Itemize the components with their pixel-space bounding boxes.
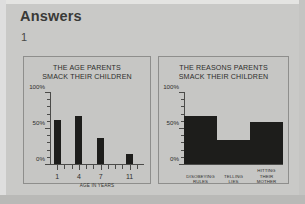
chart-panel-age: THE AGE PARENTS SMACK THEIR CHILDREN 0%5… [23,56,151,184]
x-tick [130,164,131,170]
plot-area-reasons: 0%50%100% DISOBEYING RULESTELLING LIESHI… [184,93,283,165]
bar [250,122,283,164]
category-label: DISOBEYING RULES [186,174,214,184]
bar [184,116,217,164]
plot-area-age: 0%50%100% 14711 AGE IN YEARS [50,93,144,165]
y-tick-label: 50% [33,119,45,126]
x-axis-reasons [184,164,283,165]
page-edge-bottom [0,195,305,204]
x-axis-caption-age: AGE IN YEARS [80,183,115,188]
y-tick-label: 0% [36,155,45,162]
y-tick [47,157,51,158]
x-tick [57,164,58,170]
bar [126,154,133,164]
y-tick [181,99,185,100]
x-tick [137,165,138,169]
category-label: HITTING THEIR MOTHER [257,168,277,184]
chart-panel-reasons: THE REASONS PARENTS SMACK THEIR CHILDREN… [158,56,289,184]
bar [97,138,104,164]
question-number: 1 [21,31,27,43]
x-tick-label: 11 [126,173,133,180]
chart-title-reasons-line2: SMACK THEIR CHILDREN [159,73,288,82]
y-tick [45,164,51,165]
x-tick-label: 7 [99,173,103,180]
y-tick-label: 100% [29,83,45,90]
x-tick [79,164,80,170]
chart-title-reasons-line1: THE REASONS PARENTS [159,64,288,73]
x-tick-label: 4 [77,173,81,180]
x-tick [93,165,94,169]
chart-title-reasons: THE REASONS PARENTS SMACK THEIR CHILDREN [159,64,288,82]
y-tick [47,142,51,143]
chart-title-age-line1: THE AGE PARENTS [24,64,150,73]
chart-title-age-line2: SMACK THEIR CHILDREN [24,73,150,82]
y-tick-label: 50% [167,119,179,126]
x-tick [122,165,123,169]
y-tick [47,106,51,107]
y-axis-age [50,93,51,165]
y-tick [47,121,51,122]
y-tick [45,92,51,93]
y-tick [181,114,185,115]
y-tick [47,114,51,115]
y-tick [47,99,51,100]
y-tick [45,128,51,129]
x-tick [101,164,102,170]
y-tick [179,92,185,93]
chart-title-age: THE AGE PARENTS SMACK THEIR CHILDREN [24,64,150,82]
page-title: Answers [20,8,82,24]
x-tick [86,165,87,169]
x-tick [64,165,65,169]
page-edge-left [0,0,6,204]
y-tick [47,135,51,136]
y-tick [179,164,185,165]
y-tick [47,150,51,151]
bar [75,116,82,164]
x-tick-label: 1 [55,173,59,180]
page-edge-right [299,0,305,204]
x-tick [108,165,109,169]
category-label: TELLING LIES [224,174,243,184]
x-tick [115,165,116,169]
y-tick-label: 100% [163,83,179,90]
bar [54,120,61,164]
bar [217,140,250,164]
page-edge-top [0,0,305,4]
y-tick [181,106,185,107]
y-tick-label: 0% [170,155,179,162]
answers-page: Answers 1 THE AGE PARENTS SMACK THEIR CH… [0,0,305,204]
x-tick [72,165,73,169]
